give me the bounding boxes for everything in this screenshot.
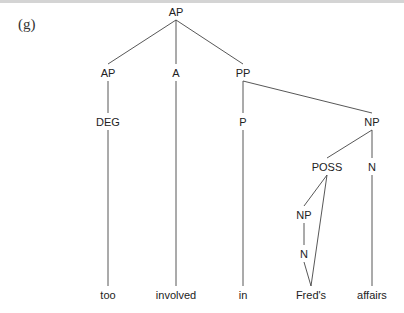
tree-edge <box>108 20 176 64</box>
tree-edges <box>0 0 404 313</box>
tree-node: AP <box>101 67 116 79</box>
tree-edge <box>311 175 327 286</box>
leaf-word: Fred's <box>296 289 326 301</box>
leaf-word: affairs <box>357 289 387 301</box>
tree-node: AP <box>169 6 184 18</box>
tree-node: A <box>172 67 179 79</box>
tree-edge <box>243 81 372 113</box>
tree-node: PP <box>236 67 251 79</box>
tree-node: N <box>300 248 308 260</box>
tree-node: NP <box>296 209 311 221</box>
tree-node: DEG <box>96 116 120 128</box>
tree-edge <box>327 130 372 158</box>
tree-node: NP <box>364 116 379 128</box>
leaf-word: in <box>239 289 248 301</box>
tree-node: P <box>239 116 246 128</box>
tree-edge <box>304 262 311 286</box>
leaf-word: involved <box>156 289 196 301</box>
tree-node: N <box>368 161 376 173</box>
tree-edge <box>176 20 243 64</box>
leaf-word: too <box>100 289 115 301</box>
tree-node: POSS <box>312 161 343 173</box>
